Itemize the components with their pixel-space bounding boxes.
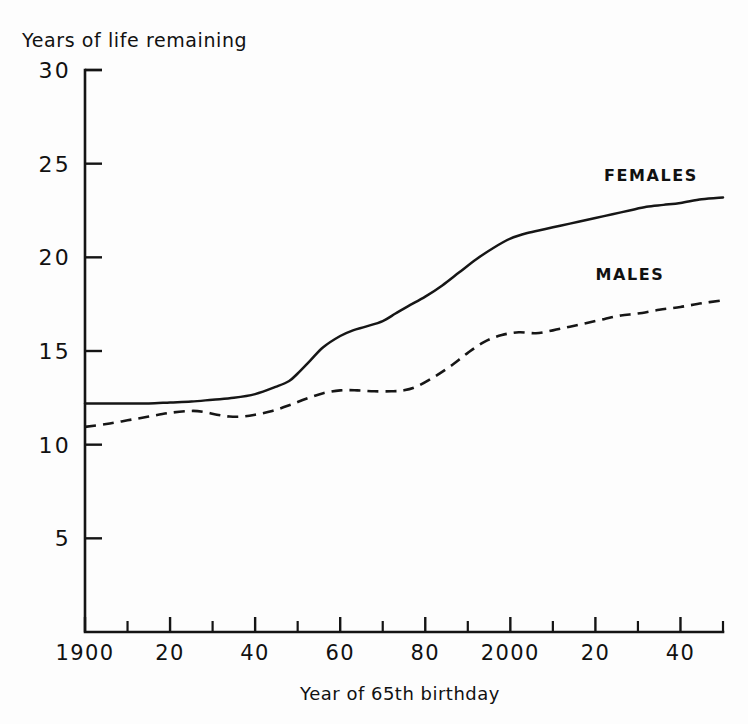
x-tick-label: 20 xyxy=(581,641,611,665)
y-tick-label: 15 xyxy=(39,339,71,364)
x-tick-label: 60 xyxy=(325,641,355,665)
y-tick-label: 10 xyxy=(39,433,71,458)
x-tick-label: 40 xyxy=(240,641,270,665)
chart-figure: Years of life remaining 30252015105 1900… xyxy=(0,0,748,724)
x-axis-title: Year of 65th birthday xyxy=(299,683,500,704)
series-line-females xyxy=(85,197,723,403)
x-tick-label: 1900 xyxy=(55,641,114,665)
y-tick-label: 30 xyxy=(39,58,71,83)
series-annotations: FEMALESMALES xyxy=(595,166,698,284)
y-tick-label: 5 xyxy=(55,526,71,551)
x-tick-label: 2000 xyxy=(481,641,540,665)
series-label-males: MALES xyxy=(595,265,664,284)
x-tick-label: 20 xyxy=(155,641,185,665)
x-tick-label: 40 xyxy=(666,641,696,665)
y-tick-label: 25 xyxy=(39,152,71,177)
y-axis-title: Years of life remaining xyxy=(21,29,247,51)
x-axis-ticks xyxy=(85,617,723,632)
data-series-group xyxy=(85,197,723,426)
series-line-males xyxy=(85,300,723,426)
y-axis-tick-labels: 30252015105 xyxy=(39,58,71,551)
y-tick-label: 20 xyxy=(39,245,71,270)
y-axis-ticks xyxy=(85,70,102,538)
life-expectancy-line-chart: Years of life remaining 30252015105 1900… xyxy=(0,0,748,724)
x-axis-tick-labels: 19002040608020002040 xyxy=(55,641,695,665)
series-label-females: FEMALES xyxy=(604,166,698,185)
axis-spines xyxy=(85,70,723,632)
x-tick-label: 80 xyxy=(411,641,441,665)
